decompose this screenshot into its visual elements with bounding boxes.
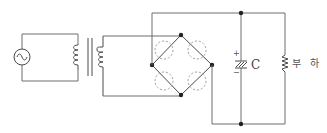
output-node-bottom [239,122,243,126]
sine-wave-icon [17,54,27,60]
bridge-edge-top-right [181,35,212,65]
capacitor [235,61,247,68]
output-bottom-wire [212,65,285,124]
bridge-edge-bottom-right [181,65,212,95]
diode-bridge [150,33,214,97]
primary-bottom-wire [22,65,78,81]
transformer-core [88,38,92,76]
primary-coil-icon [74,45,79,70]
secondary-circuit [97,36,181,96]
diode-slot-4 [188,72,206,90]
diode-slot-1 [155,41,173,59]
output-top-wire [152,13,285,65]
diode-slot-3 [155,72,173,90]
ac-source [14,49,30,65]
primary-circuit [14,34,78,81]
capacitor-minus-sign: − [233,69,240,77]
capacitor-plus-sign: + [233,50,240,58]
bridge-edge-top-left [152,35,181,65]
rectifier-circuit-diagram [0,0,327,133]
capacitor-label: C [251,59,260,71]
bridge-node-top [179,33,183,37]
bridge-edge-bottom-left [152,65,181,95]
bridge-node-bottom [179,93,183,97]
resistor-icon [282,55,288,72]
output-circuit [152,11,285,126]
secondary-coil-icon [97,36,103,96]
load-label: 부 하 [292,59,322,69]
primary-top-wire [22,34,78,49]
output-node-top [239,11,243,15]
